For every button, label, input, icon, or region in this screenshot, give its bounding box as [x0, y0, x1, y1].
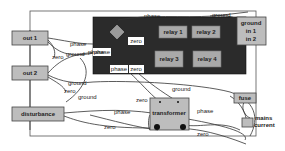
ground-in-label-3: in 2: [246, 36, 257, 42]
relay3-label: relay 3: [159, 56, 179, 62]
transformer-terminal-bottom-right: [180, 124, 186, 130]
relay1-label: relay 1: [163, 29, 183, 35]
wire-label-out1-ground: ground: [66, 51, 85, 57]
wire-label-zero-mid: zero: [136, 97, 148, 103]
fuse-label: fuse: [239, 95, 252, 101]
wire-label-out2-ground: ground: [68, 80, 87, 86]
transformer-terminal-top-right: [177, 101, 179, 103]
mains-current-label-2: current: [254, 122, 275, 128]
mains-current-label-1: mains: [255, 115, 273, 121]
relay4-label: relay 4: [197, 56, 217, 62]
wire-label-out2-zero: zero: [64, 88, 76, 94]
wire-label-phase-top: phase: [144, 13, 161, 19]
wire-label-dist-zero: zero: [104, 124, 116, 130]
ground-in-label-2: in 1: [246, 28, 257, 34]
transformer-terminal-top-left: [159, 101, 161, 103]
wire-label-ground-transformer: ground: [172, 86, 191, 92]
wiring-diagram: out 1 out 2 disturbance relay 1 relay 2 …: [0, 0, 285, 151]
out1-label: out 1: [23, 35, 38, 41]
wire-label-transformer-phase: phase: [197, 108, 214, 114]
wire-label-ground-top: ground: [212, 12, 231, 18]
wire-label-out2-phase: phase: [88, 49, 105, 55]
ground-in-label-1: ground: [241, 20, 262, 26]
zero-tag-top: zero: [130, 38, 142, 44]
wire-label-out1-zero: zero: [52, 54, 64, 60]
disturbance-label: disturbance: [21, 111, 56, 117]
out2-label: out 2: [23, 70, 38, 76]
wire-label-out1-phase: phase: [70, 41, 87, 47]
phase-tag-bottom: phase: [111, 66, 128, 72]
transformer-terminal-bottom-left: [154, 124, 160, 130]
relay2-label: relay 2: [196, 29, 216, 35]
wire-label-dist-phase: phase: [114, 109, 131, 115]
transformer-label: transformer: [152, 110, 186, 116]
wire-label-zero-bottom: zero: [197, 131, 209, 137]
mains-current-box[interactable]: [242, 118, 253, 127]
wire-label-dist-ground: ground: [78, 94, 97, 100]
zero-tag-bottom: zero: [130, 66, 142, 72]
